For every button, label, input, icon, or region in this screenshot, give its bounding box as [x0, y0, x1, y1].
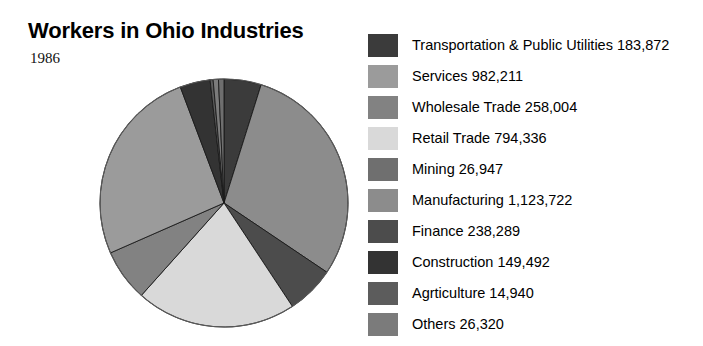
legend-label-transportation-and-public-utilities: Transportation & Public Utilities 183,87… [412, 38, 669, 53]
legend-swatch-transportation-and-public-utilities [368, 34, 398, 57]
legend-item-retail-trade[interactable]: Retail Trade 794,336 [368, 123, 698, 154]
legend-item-agrticulture[interactable]: Agrticulture 14,940 [368, 278, 698, 309]
page-subtitle: 1986 [30, 50, 60, 67]
legend-item-others[interactable]: Others 26,320 [368, 309, 698, 340]
legend-label-manufacturing: Manufacturing 1,123,722 [412, 193, 572, 208]
pie-chart-svg [96, 74, 356, 342]
legend-label-mining: Mining 26,947 [412, 162, 503, 177]
legend-label-wholesale-trade: Wholesale Trade 258,004 [412, 100, 577, 115]
legend-item-mining[interactable]: Mining 26,947 [368, 154, 698, 185]
legend-swatch-manufacturing [368, 189, 398, 212]
legend-swatch-construction [368, 251, 398, 274]
legend-item-construction[interactable]: Construction 149,492 [368, 247, 698, 278]
legend-item-finance[interactable]: Finance 238,289 [368, 216, 698, 247]
legend-swatch-retail-trade [368, 127, 398, 150]
legend-swatch-finance [368, 220, 398, 243]
chart-page: Workers in Ohio Industries 1986 Transpor… [0, 0, 703, 346]
legend-item-services[interactable]: Services 982,211 [368, 61, 698, 92]
legend-label-retail-trade: Retail Trade 794,336 [412, 131, 547, 146]
legend-swatch-wholesale-trade [368, 96, 398, 119]
legend-label-construction: Construction 149,492 [412, 255, 550, 270]
legend-item-transportation-and-public-utilities[interactable]: Transportation & Public Utilities 183,87… [368, 30, 698, 61]
legend-label-finance: Finance 238,289 [412, 224, 520, 239]
legend-item-manufacturing[interactable]: Manufacturing 1,123,722 [368, 185, 698, 216]
legend-item-wholesale-trade[interactable]: Wholesale Trade 258,004 [368, 92, 698, 123]
pie-chart [96, 74, 356, 342]
legend-label-others: Others 26,320 [412, 317, 504, 332]
legend-swatch-agrticulture [368, 282, 398, 305]
chart-legend: Transportation & Public Utilities 183,87… [368, 30, 698, 340]
legend-swatch-services [368, 65, 398, 88]
legend-swatch-others [368, 313, 398, 336]
legend-label-services: Services 982,211 [412, 69, 523, 84]
legend-swatch-mining [368, 158, 398, 181]
page-title: Workers in Ohio Industries [28, 18, 304, 44]
legend-label-agrticulture: Agrticulture 14,940 [412, 286, 534, 301]
